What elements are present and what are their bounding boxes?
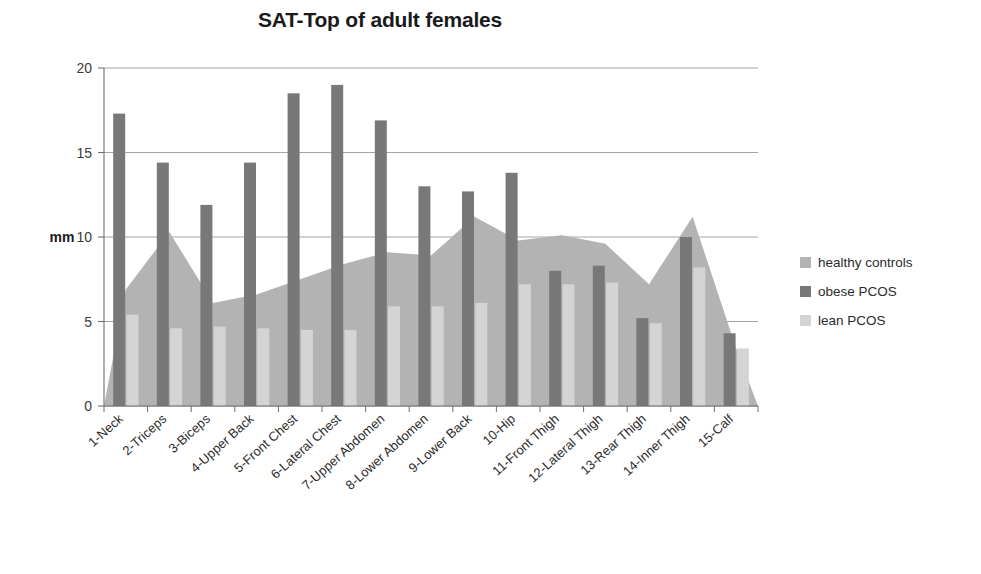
y-axis-title: mm xyxy=(50,229,75,245)
bar xyxy=(636,318,648,406)
y-axis-tick-label: 5 xyxy=(84,314,92,330)
x-axis-category-label: 2-Triceps xyxy=(119,411,169,458)
bar xyxy=(693,267,705,406)
x-axis-category-label: 12-Lateral Thigh xyxy=(525,411,605,485)
y-axis-tick-label: 20 xyxy=(76,60,92,76)
chart-legend: healthy controls obese PCOS lean PCOS xyxy=(800,255,975,342)
bar xyxy=(214,327,226,406)
bar xyxy=(563,284,575,406)
legend-swatch-healthy-controls xyxy=(800,257,811,268)
legend-label-lean-pcos: lean PCOS xyxy=(818,313,886,328)
chart-figure: SAT-Top of adult females 05101520mm1-Nec… xyxy=(0,0,981,574)
bar xyxy=(593,266,605,406)
y-axis-tick-label: 0 xyxy=(84,398,92,414)
page-margin-whitespace xyxy=(0,528,981,574)
bar xyxy=(418,186,430,406)
bar xyxy=(549,271,561,406)
bar xyxy=(462,191,474,406)
bar xyxy=(724,333,736,406)
x-axis-category-label: 1-Neck xyxy=(85,411,126,450)
bar xyxy=(345,330,357,406)
bar xyxy=(170,328,182,406)
legend-label-healthy-controls: healthy controls xyxy=(818,255,913,270)
bar xyxy=(506,173,518,406)
bar xyxy=(127,315,139,406)
bar xyxy=(606,283,618,406)
bar xyxy=(375,120,387,406)
bar xyxy=(288,93,300,406)
bar xyxy=(680,237,692,406)
x-axis-category-label: 15-Calf xyxy=(695,411,736,450)
legend-swatch-obese-pcos xyxy=(800,286,811,297)
bar xyxy=(301,330,313,406)
legend-swatch-lean-pcos xyxy=(800,315,811,326)
legend-item-obese-pcos[interactable]: obese PCOS xyxy=(800,284,975,299)
bar xyxy=(650,323,662,406)
bar xyxy=(388,306,400,406)
legend-item-healthy-controls[interactable]: healthy controls xyxy=(800,255,975,270)
legend-item-lean-pcos[interactable]: lean PCOS xyxy=(800,313,975,328)
y-axis-tick-label: 15 xyxy=(76,145,92,161)
bar xyxy=(257,328,269,406)
x-axis-category-label: 10-Hip xyxy=(480,411,518,448)
bar xyxy=(475,303,487,406)
bar xyxy=(113,114,125,406)
bar xyxy=(432,306,444,406)
bar-series-obese-pcos xyxy=(113,85,735,406)
y-axis-tick-label: 10 xyxy=(76,229,92,245)
legend-label-obese-pcos: obese PCOS xyxy=(818,284,897,299)
bar xyxy=(200,205,212,406)
bar xyxy=(519,284,531,406)
bar xyxy=(331,85,343,406)
bar xyxy=(157,163,169,406)
bar xyxy=(244,163,256,406)
bar xyxy=(737,349,749,407)
